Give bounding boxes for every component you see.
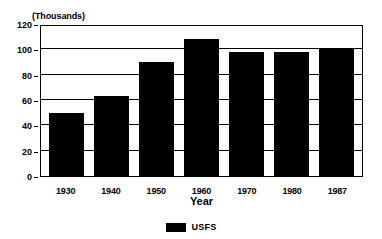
y-axis-tick-label: 100 bbox=[17, 46, 32, 55]
bar-slot bbox=[89, 26, 134, 176]
plot-area bbox=[40, 25, 363, 177]
x-tick-slot: 1970 bbox=[224, 180, 269, 194]
y-axis-tick-label: 120 bbox=[17, 21, 32, 30]
y-axis-units-label: (Thousands) bbox=[32, 11, 85, 21]
bar[interactable] bbox=[229, 52, 264, 176]
y-axis-tick-mark bbox=[34, 177, 38, 178]
y-axis-tick-label: 0 bbox=[27, 173, 32, 182]
x-tick-slot: 1950 bbox=[134, 180, 179, 194]
y-axis-tick-mark bbox=[34, 101, 38, 102]
y-axis-tick-mark bbox=[34, 50, 38, 51]
x-tick-slot: 1930 bbox=[43, 180, 88, 194]
bar[interactable] bbox=[274, 52, 309, 176]
bar[interactable] bbox=[49, 113, 84, 176]
y-axis-tick-label: 80 bbox=[22, 71, 32, 80]
legend-swatch bbox=[166, 223, 186, 232]
bar[interactable] bbox=[184, 39, 219, 176]
legend: USFS bbox=[0, 222, 382, 232]
bar-slot bbox=[179, 26, 224, 176]
bar[interactable] bbox=[319, 48, 354, 176]
y-axis-tick-label: 40 bbox=[22, 122, 32, 131]
y-axis-tick-label: 20 bbox=[22, 147, 32, 156]
bar-slot bbox=[224, 26, 269, 176]
bar[interactable] bbox=[94, 96, 129, 176]
bar[interactable] bbox=[139, 62, 174, 176]
x-axis: 1930194019501960197019801987 bbox=[40, 180, 363, 194]
legend-entry[interactable]: USFS bbox=[166, 222, 217, 232]
bar-slot bbox=[44, 26, 89, 176]
x-tick-slot: 1960 bbox=[179, 180, 224, 194]
y-axis: 020406080100120 bbox=[0, 25, 38, 177]
bar-slot bbox=[314, 26, 359, 176]
x-tick-slot: 1987 bbox=[315, 180, 360, 194]
x-tick-slot: 1980 bbox=[269, 180, 314, 194]
y-axis-tick-mark bbox=[34, 25, 38, 26]
legend-label: USFS bbox=[192, 222, 217, 232]
bar-slot bbox=[134, 26, 179, 176]
bar-chart-figure: (Thousands) 020406080100120 193019401950… bbox=[0, 0, 382, 239]
y-axis-tick-mark bbox=[34, 126, 38, 127]
bars-layer bbox=[41, 26, 362, 176]
x-tick-slot: 1940 bbox=[88, 180, 133, 194]
y-axis-tick-mark bbox=[34, 152, 38, 153]
y-axis-tick-mark bbox=[34, 76, 38, 77]
bar-slot bbox=[269, 26, 314, 176]
y-axis-tick-label: 60 bbox=[22, 97, 32, 106]
x-axis-title: Year bbox=[40, 195, 363, 207]
